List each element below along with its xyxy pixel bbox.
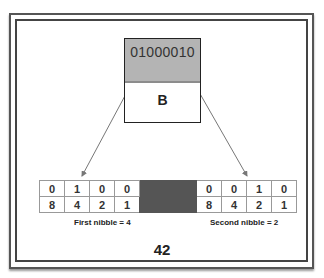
weight-cell: 4 <box>222 197 247 213</box>
byte-box: 01000010 B <box>124 38 201 123</box>
weight-cell: 1 <box>272 197 297 213</box>
bit-cell: 1 <box>65 181 90 197</box>
weight-cell: 4 <box>65 197 90 213</box>
byte-character: B <box>125 92 200 108</box>
bit-cell: 0 <box>272 181 297 197</box>
nibble-table: 0 1 0 0 0 0 1 0 8 4 2 1 8 4 2 1 <box>39 180 297 213</box>
byte-bits-area: 01000010 <box>125 39 200 83</box>
weight-cell: 8 <box>40 197 65 213</box>
decimal-result: 42 <box>0 241 324 258</box>
byte-bits: 01000010 <box>125 44 200 60</box>
bit-cell: 0 <box>222 181 247 197</box>
bit-cell: 0 <box>115 181 140 197</box>
nibble-separator <box>140 181 197 213</box>
weight-cell: 8 <box>197 197 222 213</box>
bit-cell: 0 <box>197 181 222 197</box>
bit-cell: 1 <box>247 181 272 197</box>
weight-cell: 1 <box>115 197 140 213</box>
weight-cell: 2 <box>90 197 115 213</box>
bit-cell: 0 <box>90 181 115 197</box>
bits-row: 0 1 0 0 0 0 1 0 <box>40 181 297 197</box>
second-nibble-label: Second nibble = 2 <box>210 218 278 227</box>
first-nibble-label: First nibble = 4 <box>74 218 131 227</box>
bit-cell: 0 <box>40 181 65 197</box>
weight-cell: 2 <box>247 197 272 213</box>
